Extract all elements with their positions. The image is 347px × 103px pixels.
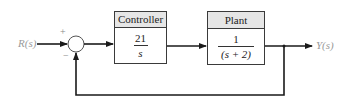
signal-wires bbox=[0, 0, 347, 103]
plant-block: Plant 1 (s + 2) bbox=[207, 11, 265, 65]
controller-block: Controller 21 s bbox=[114, 11, 167, 64]
plus-sign: + bbox=[60, 26, 66, 37]
minus-sign: − bbox=[63, 50, 69, 61]
summing-junction bbox=[68, 36, 84, 52]
plant-numerator: 1 bbox=[218, 33, 254, 45]
controller-title: Controller bbox=[115, 12, 166, 28]
plant-transfer-function: 1 (s + 2) bbox=[208, 33, 264, 62]
controller-denominator: s bbox=[133, 47, 148, 59]
input-signal-label: R(s) bbox=[18, 37, 36, 49]
output-signal-label: Y(s) bbox=[316, 39, 334, 51]
controller-transfer-function: 21 s bbox=[115, 32, 166, 61]
block-diagram: R(s) Y(s) + − Controller 21 s Plant 1 (s… bbox=[0, 0, 347, 103]
controller-numerator: 21 bbox=[133, 32, 148, 44]
plant-denominator: (s + 2) bbox=[218, 48, 254, 60]
plant-title: Plant bbox=[208, 12, 264, 29]
